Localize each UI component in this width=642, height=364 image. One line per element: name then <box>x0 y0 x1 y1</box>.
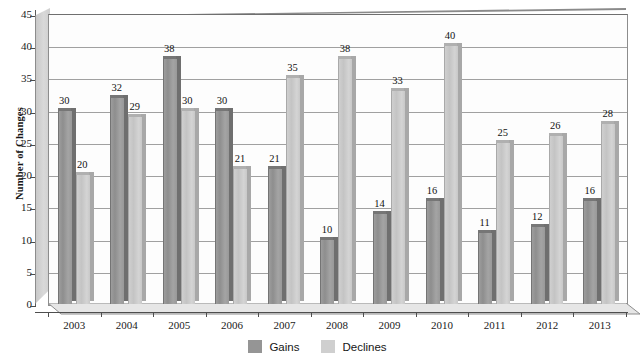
y-axis-tick-labels: 454035302520151050 <box>6 0 32 364</box>
plot-area-3d: 3020322938303021213510381433164011251226… <box>35 8 628 310</box>
gridline-30 <box>49 112 627 113</box>
y-tick-label-10: 10 <box>10 235 32 246</box>
y-tick-label-15: 15 <box>10 202 32 213</box>
x-tick-mark-2010 <box>416 312 417 317</box>
x-tick-mark-2006 <box>206 312 207 317</box>
x-axis: 2003200420052006200720082009201020112012… <box>35 312 628 336</box>
gridline-40 <box>49 47 627 48</box>
y-tick-label-40: 40 <box>10 41 32 52</box>
y-tick-label-25: 25 <box>10 138 32 149</box>
x-tick-mark-2012 <box>521 312 522 317</box>
x-tick-mark-2007 <box>258 312 259 317</box>
x-tick-label-2010: 2010 <box>431 319 453 331</box>
legend-swatch-declines <box>321 340 335 353</box>
x-tick-mark-2004 <box>101 312 102 317</box>
x-tick-mark-end <box>626 312 627 317</box>
legend-label-gains: Gains <box>269 341 299 353</box>
x-tick-mark-2009 <box>363 312 364 317</box>
y-tick-label-45: 45 <box>10 9 32 20</box>
plot-panel <box>48 14 628 306</box>
x-tick-label-2006: 2006 <box>221 319 243 331</box>
y-tick-label-30: 30 <box>10 106 32 117</box>
x-tick-label-2012: 2012 <box>536 319 558 331</box>
x-tick-mark-2013 <box>573 312 574 317</box>
gridline-5 <box>49 273 627 274</box>
y-tick-label-20: 20 <box>10 170 32 181</box>
legend-swatch-gains <box>248 340 262 353</box>
x-axis-line <box>35 312 628 313</box>
gridline-25 <box>49 144 627 145</box>
x-tick-mark-2008 <box>311 312 312 317</box>
gridline-10 <box>49 241 627 242</box>
x-tick-label-2004: 2004 <box>116 319 138 331</box>
legend-label-declines: Declines <box>342 341 386 353</box>
x-tick-label-2011: 2011 <box>484 319 506 331</box>
x-tick-label-2013: 2013 <box>589 319 611 331</box>
x-tick-label-2009: 2009 <box>379 319 401 331</box>
y-tick-label-5: 5 <box>10 267 32 278</box>
gridline-35 <box>49 79 627 80</box>
y-tick-label-0: 0 <box>10 299 32 310</box>
chart-legend: Gains Declines <box>0 340 635 353</box>
y-tick-label-35: 35 <box>10 73 32 84</box>
x-tick-label-2007: 2007 <box>273 319 295 331</box>
x-tick-label-2008: 2008 <box>326 319 348 331</box>
legend-item-gains[interactable]: Gains <box>248 340 299 353</box>
x-tick-mark-2011 <box>468 312 469 317</box>
x-tick-label-2003: 2003 <box>63 319 85 331</box>
gridline-20 <box>49 176 627 177</box>
gridline-15 <box>49 208 627 209</box>
x-tick-mark-2005 <box>153 312 154 317</box>
x-tick-label-2005: 2005 <box>168 319 190 331</box>
legend-item-declines[interactable]: Declines <box>321 340 386 353</box>
x-tick-mark-2003 <box>48 312 49 317</box>
